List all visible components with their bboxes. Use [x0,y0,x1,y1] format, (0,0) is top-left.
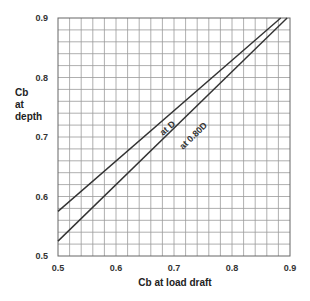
line-annotations: at Dat 0.80D [158,118,210,151]
x-tick-label: 0.5 [52,263,65,273]
y-tick-label: 0.5 [35,251,48,261]
y-axis-label-line: at [15,99,42,111]
y-tick-label: 0.8 [35,73,48,83]
y-axis-label-line: depth [15,111,42,123]
x-tick-label: 0.9 [284,263,297,273]
y-tick-label: 0.7 [35,132,48,142]
x-axis-label: Cb at load draft [0,277,310,288]
chart: 0.50.60.70.80.9 0.50.60.70.80.9 at Dat 0… [0,0,310,301]
y-axis-label-line: Cb [15,87,42,99]
y-axis-label: Cb at depth [15,87,42,123]
x-tick-label: 0.7 [168,263,181,273]
x-tick-label: 0.8 [226,263,239,273]
y-tick-label: 0.9 [35,13,48,23]
x-tick-label: 0.6 [110,263,123,273]
line-label: at 0.80D [177,120,209,152]
y-tick-labels: 0.50.60.70.80.9 [35,13,48,261]
series-line [58,18,281,211]
y-tick-label: 0.6 [35,192,48,202]
x-tick-labels: 0.50.60.70.80.9 [52,263,297,273]
grid [58,18,290,256]
